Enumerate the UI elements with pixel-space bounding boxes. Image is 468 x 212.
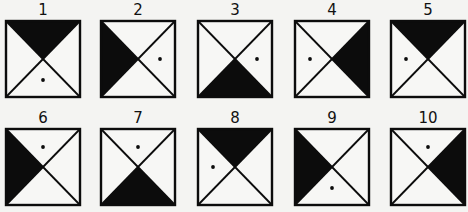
divided-square — [390, 20, 466, 98]
divided-square — [197, 128, 273, 206]
figure-number: 4 — [294, 2, 370, 18]
figure-number: 5 — [390, 2, 466, 18]
divided-square — [390, 128, 466, 206]
dot-marker-right — [255, 57, 259, 61]
divided-square — [100, 128, 176, 206]
dot-marker-top — [41, 145, 45, 149]
divided-square — [5, 128, 81, 206]
dot-marker-bottom — [41, 78, 45, 82]
divided-square — [294, 20, 370, 98]
dot-marker-bottom — [330, 186, 334, 190]
dot-marker-left — [404, 57, 408, 61]
dot-marker-top — [426, 145, 430, 149]
divided-square — [197, 20, 273, 98]
dot-marker-left — [211, 165, 215, 169]
divided-square — [5, 20, 81, 98]
figure-number: 2 — [100, 2, 176, 18]
figure-number: 3 — [197, 2, 273, 18]
divided-square — [294, 128, 370, 206]
figure-number: 1 — [5, 2, 81, 18]
figure-number: 10 — [390, 110, 466, 126]
figure-number: 7 — [100, 110, 176, 126]
divided-square — [100, 20, 176, 98]
dot-marker-right — [158, 57, 162, 61]
figure-number: 9 — [294, 110, 370, 126]
figure-number: 8 — [197, 110, 273, 126]
dot-marker-top — [136, 145, 140, 149]
figure-number: 6 — [5, 110, 81, 126]
dot-marker-left — [308, 57, 312, 61]
